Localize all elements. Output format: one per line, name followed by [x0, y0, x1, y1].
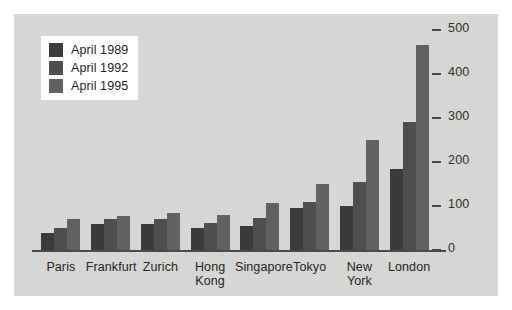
- bar[interactable]: [67, 219, 80, 250]
- x-axis-category-label: Zurich: [136, 260, 186, 274]
- bar[interactable]: [266, 203, 279, 250]
- bar[interactable]: [353, 182, 366, 250]
- legend-label: April 1995: [71, 79, 128, 93]
- bar-group: [141, 213, 180, 250]
- x-axis-category-label: NewYork: [335, 260, 385, 288]
- chart-legend: April 1989April 1992April 1995: [41, 36, 138, 100]
- bar-group: [41, 219, 80, 250]
- bar[interactable]: [240, 226, 253, 250]
- bar[interactable]: [290, 208, 303, 250]
- bar[interactable]: [316, 184, 329, 250]
- legend-label: April 1992: [71, 61, 128, 75]
- x-axis-category-label: HongKong: [185, 260, 235, 288]
- bar-group: [290, 184, 329, 250]
- bar[interactable]: [390, 169, 403, 250]
- bar[interactable]: [253, 218, 266, 250]
- x-axis-category-label: Tokyo: [285, 260, 335, 274]
- legend-item[interactable]: April 1989: [49, 43, 128, 57]
- bar-group: [390, 45, 429, 250]
- bar[interactable]: [117, 216, 130, 250]
- x-axis-category-label: Frankfurt: [86, 260, 136, 274]
- bar[interactable]: [167, 213, 180, 250]
- legend-swatch: [49, 43, 63, 57]
- legend-item[interactable]: April 1995: [49, 79, 128, 93]
- bar-group: [91, 216, 130, 250]
- legend-item[interactable]: April 1992: [49, 61, 128, 75]
- bar[interactable]: [366, 140, 379, 250]
- bar-group: [191, 215, 230, 250]
- x-axis-category-label: London: [384, 260, 434, 274]
- bar[interactable]: [191, 228, 204, 250]
- legend-label: April 1989: [71, 43, 128, 57]
- bar[interactable]: [403, 122, 416, 250]
- bar[interactable]: [91, 224, 104, 250]
- bar[interactable]: [41, 233, 54, 250]
- bar[interactable]: [340, 206, 353, 250]
- bar-group: [340, 140, 379, 250]
- bar[interactable]: [141, 224, 154, 250]
- bar[interactable]: [104, 219, 117, 250]
- bar[interactable]: [54, 228, 67, 250]
- legend-swatch: [49, 79, 63, 93]
- bar[interactable]: [154, 219, 167, 250]
- bar[interactable]: [204, 223, 217, 250]
- chart-screenshot: 0100200300400500 ParisFrankfurtZurichHon…: [0, 0, 512, 310]
- bar[interactable]: [303, 202, 316, 250]
- chart-panel: 0100200300400500 ParisFrankfurtZurichHon…: [14, 14, 498, 296]
- bar[interactable]: [416, 45, 429, 250]
- bar[interactable]: [217, 215, 230, 250]
- legend-swatch: [49, 61, 63, 75]
- bar-group: [240, 203, 279, 250]
- x-axis-category-label: Singapore: [235, 260, 285, 274]
- x-axis-category-label: Paris: [36, 260, 86, 274]
